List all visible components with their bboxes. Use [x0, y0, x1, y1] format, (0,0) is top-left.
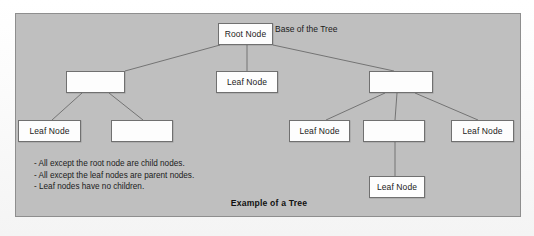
tree-node-l3-b [111, 120, 173, 142]
tree-node-label: Leaf Node [29, 126, 69, 136]
tree-node-label: Leaf Node [462, 126, 502, 136]
figure-caption: Example of a Tree [16, 198, 522, 208]
tree-node-label: Leaf Node [377, 182, 417, 192]
edge-l2-left-to-l3-b [109, 93, 143, 120]
tree-node-label: Leaf Node [227, 77, 267, 87]
tree-node-l3-a: Leaf Node [18, 120, 81, 142]
tree-node-l3-d [363, 120, 425, 142]
tree-node-l3-c: Leaf Node [289, 120, 350, 142]
edge-l2-right-to-l3-c [326, 93, 385, 120]
note-item-1: - All except the root node are child nod… [34, 158, 194, 170]
edge-l2-right-to-l3-e [415, 93, 478, 120]
edge-l2-left-to-l3-a [52, 93, 82, 120]
edge-root-to-l2-left [125, 45, 220, 71]
diagram-panel: Root NodeLeaf NodeLeaf NodeLeaf NodeLeaf… [15, 13, 521, 217]
edge-root-to-l2-right [273, 45, 394, 71]
tree-diagram-figure: Root NodeLeaf NodeLeaf NodeLeaf NodeLeaf… [0, 0, 534, 236]
tree-node-l2-right [369, 71, 433, 93]
note-item-2: - All except the leaf nodes are parent n… [34, 170, 194, 182]
tree-node-l3-e: Leaf Node [451, 120, 514, 142]
tree-node-l2-left [66, 71, 125, 93]
tree-node-l2-mid: Leaf Node [216, 71, 278, 93]
base-of-the-tree-label: Base of the Tree [275, 24, 337, 34]
edge-l2-right-to-l3-d [395, 93, 397, 120]
tree-node-label: Leaf Node [299, 126, 339, 136]
tree-node-l4-a: Leaf Node [369, 176, 425, 198]
note-item-3: - Leaf nodes have no children. [34, 181, 194, 193]
notes-list: - All except the root node are child nod… [34, 158, 194, 193]
tree-node-label: Root Node [225, 29, 267, 39]
tree-node-root: Root Node [218, 23, 273, 45]
